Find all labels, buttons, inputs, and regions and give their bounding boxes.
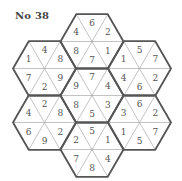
triangle-number-top-right: 4 [105, 81, 111, 91]
triangle-number-bottom-right: 4 [105, 154, 111, 164]
hexagon-center: 743589 [61, 68, 124, 123]
triangle-number-top: 4 [42, 45, 48, 55]
triangle-number-top-right: 8 [57, 54, 63, 64]
triangle-number-bottom: 5 [89, 109, 95, 119]
triangle-number-top: 5 [137, 45, 143, 55]
triangle-number-top-left: 9 [73, 81, 79, 91]
hex-puzzle-board: 6217844892715726417435892829646275135148… [0, 0, 182, 181]
triangle-number-bottom-left: 8 [73, 100, 79, 110]
triangle-number-bottom: 8 [89, 163, 95, 173]
triangle-number-bottom-left: 6 [26, 127, 32, 137]
triangle-number-top: 6 [137, 99, 143, 109]
triangle-number-bottom: 2 [42, 82, 48, 92]
triangle-number-bottom: 6 [137, 82, 143, 92]
triangle-number-bottom: 5 [137, 136, 143, 146]
triangle-number-top-left: 3 [121, 108, 127, 118]
triangle-number-bottom-left: 7 [73, 154, 79, 164]
triangle-number-top: 6 [89, 18, 95, 28]
hexagon-lower-right: 627513 [108, 95, 171, 150]
triangle-number-top-left: 2 [73, 135, 79, 145]
hexagon-bottom: 514872 [61, 122, 124, 177]
triangle-number-top-left: 1 [26, 54, 32, 64]
triangle-number-top: 2 [42, 99, 48, 109]
triangle-number-bottom-left: 4 [121, 73, 127, 83]
triangle-number-top: 5 [89, 126, 95, 136]
triangle-number-bottom: 7 [89, 55, 95, 65]
triangle-number-top-left: 4 [26, 108, 32, 118]
triangle-number-bottom-right: 3 [105, 100, 111, 110]
triangle-number-top-right: 8 [57, 108, 63, 118]
triangle-number-top-left: 1 [121, 54, 127, 64]
triangle-number-top: 7 [89, 72, 95, 82]
triangle-number-bottom-right: 2 [57, 127, 63, 137]
triangle-number-top-right: 7 [152, 54, 158, 64]
triangle-number-top-right: 2 [152, 108, 158, 118]
triangle-number-bottom-right: 2 [152, 73, 158, 83]
triangle-number-bottom: 9 [42, 136, 48, 146]
triangle-number-top-right: 1 [105, 135, 111, 145]
hexagon-upper-left: 489271 [13, 41, 76, 96]
triangle-number-bottom-right: 9 [57, 73, 63, 83]
triangle-number-top-left: 4 [73, 27, 79, 37]
hexagon-upper-right: 572641 [108, 41, 171, 96]
triangle-number-bottom-left: 7 [26, 73, 32, 83]
triangle-number-top-right: 2 [105, 27, 111, 37]
hexagon-top: 621784 [61, 14, 124, 69]
triangle-number-bottom-right: 7 [152, 127, 158, 137]
triangle-number-bottom-left: 8 [73, 46, 79, 56]
hexagon-lower-left: 282964 [13, 95, 76, 150]
triangle-number-bottom-right: 1 [105, 46, 111, 56]
triangle-number-bottom-left: 1 [121, 127, 127, 137]
